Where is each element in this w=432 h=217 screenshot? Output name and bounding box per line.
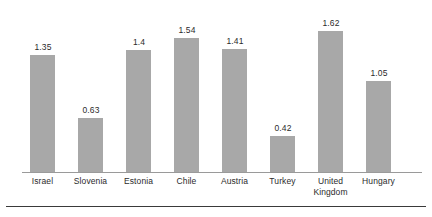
bar-value-label: 0.42 (264, 123, 302, 133)
bar-group: 0.42 (264, 0, 312, 173)
bar-group: 1.4 (120, 0, 168, 173)
bar-value-label: 1.41 (216, 36, 254, 46)
bar-value-label: 1.35 (24, 42, 62, 52)
bottom-horizontal-rule (6, 206, 426, 207)
bar-chart-figure: 1.350.631.41.541.410.421.621.05 IsraelSl… (0, 0, 432, 217)
bar (174, 38, 199, 173)
bar (78, 118, 103, 173)
bar-value-label: 1.05 (360, 68, 398, 78)
bar-value-label: 1.4 (120, 37, 158, 47)
bar (126, 50, 151, 173)
bar-group: 1.41 (216, 0, 264, 173)
bar (366, 81, 391, 173)
category-tick-label: Hungary (349, 176, 409, 187)
bar (222, 49, 247, 173)
bar-group: 1.35 (24, 0, 72, 173)
bar (318, 31, 343, 173)
baseline-axis (22, 172, 422, 173)
plot-area: 1.350.631.41.541.410.421.621.05 (0, 0, 432, 173)
bar-value-label: 0.63 (72, 105, 110, 115)
bar (270, 136, 295, 173)
bar-group: 1.05 (360, 0, 408, 173)
bar-value-label: 1.54 (168, 25, 206, 35)
bar-group: 0.63 (72, 0, 120, 173)
bar-group: 1.54 (168, 0, 216, 173)
category-axis: IsraelSloveniaEstoniaChileAustriaTurkeyU… (0, 176, 432, 206)
bar-group: 1.62 (312, 0, 360, 173)
bar-value-label: 1.62 (312, 18, 350, 28)
bar (30, 55, 55, 173)
